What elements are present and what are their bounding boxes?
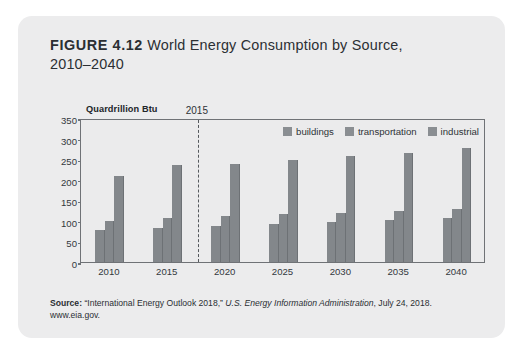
figure-number: FIGURE 4.12 [50,37,143,53]
bar-group-2020 [211,164,240,262]
legend-item-transportation: transportation [345,126,417,137]
figure-title: FIGURE 4.12 World Energy Consumption by … [50,36,470,74]
x-tick-label-2030: 2030 [330,266,351,277]
legend-swatch-buildings [283,127,292,136]
chart-plot-area: 050100150200250300350 [80,119,485,263]
bar-buildings-2020 [211,226,221,262]
bar-group-2040 [443,148,472,262]
source-note: Source: “International Energy Outlook 20… [50,297,480,322]
legend-swatch-industrial [428,127,437,136]
y-tick-label: 250 [61,156,77,167]
bar-industrial-2010 [114,176,124,262]
y-tick-label: 200 [61,176,77,187]
x-tick-label-2020: 2020 [214,266,235,277]
y-tick-label: 50 [66,238,77,249]
bar-transportation-2015 [163,218,173,262]
y-axis-title: Quardrillion Btu [86,104,158,114]
bar-industrial-2025 [288,160,298,262]
bar-transportation-2030 [336,213,346,262]
y-tick-label: 350 [61,115,77,126]
legend-item-industrial: industrial [428,126,479,137]
bar-industrial-2040 [462,148,472,262]
y-tick-label: 150 [61,197,77,208]
bar-industrial-2035 [404,153,414,262]
source-publication: “International Energy Outlook 2018,” [84,298,223,308]
source-label: Source: [50,298,82,308]
bar-buildings-2040 [443,218,453,262]
y-tick-label: 100 [61,217,77,228]
bar-buildings-2015 [153,228,163,262]
bar-industrial-2015 [172,165,182,262]
x-tick-label-2035: 2035 [388,266,409,277]
bar-transportation-2040 [452,209,462,262]
chart-plot-wrapper: 050100150200250300350 201020152020202520… [80,119,485,279]
legend-swatch-transportation [345,127,354,136]
year-marker-label: 2015 [186,105,208,116]
figure-title-line2: 2010–2040 [50,56,124,72]
x-tick-label-2025: 2025 [272,266,293,277]
bar-buildings-2035 [385,220,395,262]
y-tick-label: 0 [72,259,77,270]
legend-label: industrial [441,126,479,137]
chart-legend: buildingstransportationindustrial [283,126,479,137]
x-tick-label-2040: 2040 [445,266,466,277]
bar-transportation-2020 [221,216,231,262]
bar-buildings-2030 [327,222,337,262]
y-tick-label: 300 [61,135,77,146]
x-tick-label-2010: 2010 [98,266,119,277]
source-organization: U.S. Energy Information Administration [225,298,373,308]
bar-transportation-2010 [105,221,115,262]
y-tick-mark [78,263,82,264]
figure-card: FIGURE 4.12 World Energy Consumption by … [18,16,505,338]
legend-label: buildings [296,126,334,137]
source-url: www.eia.gov. [50,310,100,320]
year-marker-line [198,120,199,262]
bar-group-2030 [327,156,356,262]
bar-group-2015 [153,165,182,262]
legend-item-buildings: buildings [283,126,334,137]
chart-bars-layer [81,120,484,262]
bar-buildings-2010 [95,230,105,262]
figure-title-line1: World Energy Consumption by Source, [147,37,403,53]
bar-industrial-2020 [230,164,240,262]
bar-group-2025 [269,160,298,262]
bar-group-2035 [385,153,414,262]
source-date: , July 24, 2018. [374,298,432,308]
bar-transportation-2035 [394,211,404,262]
x-tick-label-2015: 2015 [156,266,177,277]
bar-industrial-2030 [346,156,356,262]
legend-label: transportation [358,126,417,137]
bar-transportation-2025 [279,214,289,262]
bar-buildings-2025 [269,224,279,262]
bar-group-2010 [95,176,124,262]
